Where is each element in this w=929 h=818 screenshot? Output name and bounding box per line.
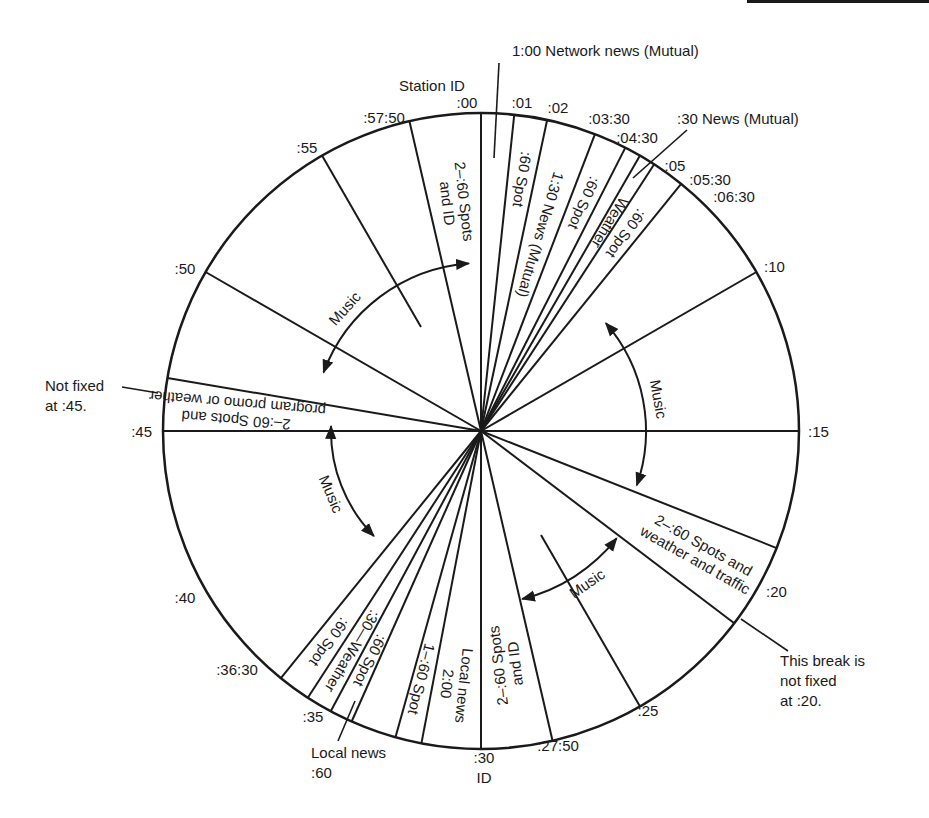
segment-label: Local news2:00 — [435, 646, 477, 724]
music-label: Music — [316, 473, 347, 516]
callout-text: :60 — [311, 764, 332, 781]
minute-label: :57:50 — [363, 109, 405, 126]
radial-divider — [481, 431, 777, 548]
minute-label: :06:30 — [713, 188, 755, 205]
minute-label: :30 — [474, 749, 495, 766]
segment-label: 2–:60 Spots andprogram promo or weather — [147, 388, 327, 437]
minute-label: :15 — [808, 423, 829, 440]
minute-label: :55 — [297, 139, 318, 156]
callout-text: 1:00 Network news (Mutual) — [512, 42, 699, 59]
callout-text: at :20. — [780, 692, 822, 709]
svg-text::60 Spot: :60 Spot — [510, 150, 536, 209]
callout-text: Station ID — [399, 77, 465, 94]
program-clock-diagram: MusicMusicMusicMusic 2–:60 Spotsand ID:6… — [0, 0, 929, 818]
leader-line — [741, 619, 788, 651]
music-double-arrow-icon — [331, 426, 374, 536]
minute-label: ID — [477, 769, 492, 786]
minute-label: :00 — [457, 94, 478, 111]
leader-line — [494, 63, 499, 158]
segment-label: 2–:60 Spotsand ID — [485, 623, 528, 706]
callout-text: not fixed — [780, 672, 837, 689]
minute-label: :05 — [665, 157, 686, 174]
callout-text: This break is — [780, 652, 865, 669]
music-label: Music — [647, 378, 671, 420]
minute-label: :40 — [175, 589, 196, 606]
music-label: Music — [566, 565, 608, 602]
minute-label: :20 — [766, 583, 787, 600]
minute-label: :02 — [548, 99, 569, 116]
radial-divider — [541, 535, 640, 706]
minute-label: :10 — [764, 258, 785, 275]
minute-label: :04:30 — [616, 129, 658, 146]
minute-label: :35 — [303, 708, 324, 725]
callout-text: at :45. — [45, 397, 87, 414]
minute-label: :25 — [638, 702, 659, 719]
segment-label: 2–:60 Spotsand ID — [435, 161, 478, 244]
radial-divider — [409, 121, 481, 431]
callout-text: Local news — [311, 744, 386, 761]
minute-label: :36:30 — [216, 661, 258, 678]
minute-label: :27:50 — [537, 737, 579, 754]
minute-label: :01 — [512, 94, 533, 111]
minute-label: :45 — [131, 423, 152, 440]
segment-label: 2–:60 Spots andweather and traffic — [637, 507, 762, 598]
radial-divider — [322, 156, 421, 327]
music-label: Music — [325, 288, 364, 329]
minute-label: :50 — [175, 260, 196, 277]
callout-text: Not fixed — [45, 377, 104, 394]
callout-text: :30 News (Mutual) — [677, 110, 799, 127]
svg-text:2:00: 2:00 — [437, 668, 457, 699]
minute-label: :03:30 — [588, 110, 630, 127]
minute-label: :05:30 — [689, 171, 731, 188]
segment-label: :60 Spot — [510, 150, 536, 209]
